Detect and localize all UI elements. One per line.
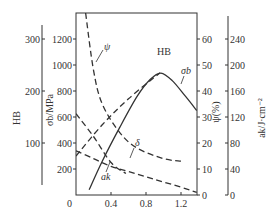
leader-line-sigma xyxy=(181,76,184,84)
chart: 20040060080010001200100200300HBσb/MPa00.… xyxy=(0,0,275,213)
axes: 20040060080010001200100200300HBσb/MPa00.… xyxy=(11,13,267,209)
leader-line-delta xyxy=(130,148,134,158)
ak-tick-label: 0 xyxy=(230,190,235,201)
sigma-tick-label: 800 xyxy=(57,86,72,97)
curve-label-ak: ak xyxy=(101,171,111,182)
sigma-tick-label: 1000 xyxy=(52,60,72,71)
psi-tick-label: 10 xyxy=(202,164,212,175)
ak-tick-label: 160 xyxy=(230,86,245,97)
psi-tick-label: 60 xyxy=(202,34,212,45)
ak-tick-label: 80 xyxy=(230,138,240,149)
ak-tick-label: 120 xyxy=(230,112,245,123)
curve-label-hb: HB xyxy=(157,46,171,57)
ak-tick-label: 200 xyxy=(230,60,245,71)
ak-axis-title: ak/J·cm⁻² xyxy=(256,98,267,138)
hb-axis-title: HB xyxy=(11,111,22,125)
curve-HB xyxy=(76,73,160,156)
curve-ψ xyxy=(86,13,181,161)
x-tick-label: 0.4 xyxy=(105,198,118,209)
sigma-axis-title: σb/MPa xyxy=(44,93,55,126)
psi-tick-label: 40 xyxy=(202,86,212,97)
hb-tick-label: 100 xyxy=(25,138,40,149)
hb-tick-label: 200 xyxy=(25,86,40,97)
curve-label-sigma: σb xyxy=(181,65,191,76)
plot-frame xyxy=(76,13,197,195)
curve-label-psi: ψ xyxy=(104,41,111,52)
curve-label-delta: δ xyxy=(135,137,140,148)
sigma-tick-label: 600 xyxy=(57,112,72,123)
psi-tick-label: 20 xyxy=(202,138,212,149)
psi-tick-label: 50 xyxy=(202,60,212,71)
x-tick-label: 1.2 xyxy=(175,198,188,209)
sigma-tick-label: 400 xyxy=(57,138,72,149)
x-tick-label: 0.8 xyxy=(140,198,153,209)
curve-δ xyxy=(76,151,197,193)
leader-line-psi xyxy=(96,50,103,62)
ak-tick-label: 40 xyxy=(230,164,240,175)
psi-axis-title: ψ(%) xyxy=(210,101,222,122)
hb-tick-label: 300 xyxy=(25,34,40,45)
sigma-tick-label: 200 xyxy=(57,164,72,175)
curves xyxy=(76,13,197,192)
ak-tick-label: 240 xyxy=(230,34,245,45)
origin-label: 0 xyxy=(67,198,72,209)
sigma-tick-label: 1200 xyxy=(52,34,72,45)
psi-tick-label: 0 xyxy=(202,190,207,201)
